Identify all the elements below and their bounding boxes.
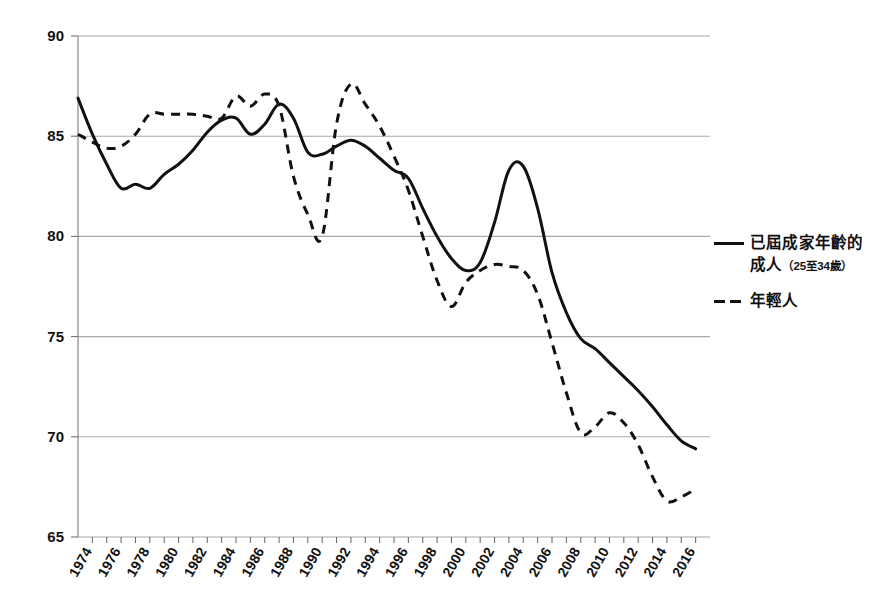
chart-legend: 已屆成家年齡的 成人（25至34歲） 年輕人: [714, 232, 890, 326]
gridlines: [78, 36, 710, 537]
x-tick-label: 1978: [123, 544, 153, 579]
y-tick-label: 85: [47, 127, 64, 144]
x-tick-label: 2016: [669, 544, 699, 579]
series-line-adults: [78, 98, 696, 449]
x-tick-label: 2010: [583, 544, 613, 579]
y-tick-label: 80: [47, 227, 64, 244]
x-tick-label: 1980: [152, 544, 182, 579]
x-tick-label: 1986: [238, 544, 268, 579]
x-tick-label: 1984: [209, 544, 239, 579]
x-tick-label: 1988: [267, 544, 297, 579]
x-tick-label: 1996: [382, 544, 412, 579]
x-tick-label: 2002: [468, 544, 498, 579]
series-line-youth: [78, 84, 696, 503]
series-lines: [78, 84, 696, 503]
solid-line-swatch-icon: [714, 235, 744, 251]
x-tick-label: 1990: [295, 544, 325, 579]
line-chart: 657075808590 197419761978198019821984198…: [0, 0, 890, 605]
x-tick-labels: 1974197619781980198219841986198819901992…: [66, 544, 699, 579]
legend-item-adults: 已屆成家年齡的 成人（25至34歲）: [714, 232, 890, 276]
x-tick-label: 2012: [611, 544, 641, 579]
x-tickmarks: [71, 36, 696, 543]
x-tick-label: 2000: [439, 544, 469, 579]
x-tick-label: 2006: [525, 544, 555, 579]
x-tick-label: 1998: [410, 544, 440, 579]
legend-item-youth-label: 年輕人: [750, 290, 799, 312]
legend-item-adults-label: 已屆成家年齡的 成人（25至34歲）: [750, 232, 863, 276]
x-tick-label: 1976: [94, 544, 124, 579]
legend-item-youth: 年輕人: [714, 290, 890, 312]
x-tick-label: 1992: [324, 544, 354, 579]
legend-adults-line1: 已屆成家年齡的: [750, 234, 863, 251]
y-tick-label: 90: [47, 27, 64, 44]
x-tick-label: 1974: [66, 544, 96, 579]
legend-adults-line2: 成人: [750, 256, 782, 273]
y-tick-label: 70: [47, 428, 64, 445]
y-tick-label: 75: [47, 328, 64, 345]
dashed-line-swatch-icon: [714, 293, 744, 309]
x-tick-label: 2008: [554, 544, 584, 579]
x-tick-label: 1994: [353, 544, 383, 579]
y-tick-labels: 657075808590: [47, 27, 64, 545]
y-tick-label: 65: [47, 528, 64, 545]
x-tick-label: 1982: [180, 544, 210, 579]
x-tick-label: 2004: [496, 544, 526, 579]
x-tick-label: 2014: [640, 544, 670, 579]
legend-adults-age-range: （25至34歲）: [782, 260, 852, 272]
